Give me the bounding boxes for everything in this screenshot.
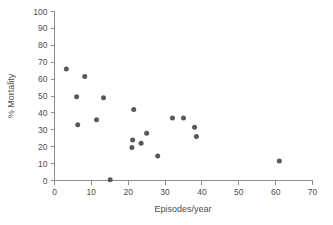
y-tick-labels: 0102030405060708090100	[33, 7, 47, 186]
data-point	[192, 125, 197, 130]
data-point	[101, 95, 106, 100]
data-point	[130, 137, 135, 142]
axes-group	[51, 12, 313, 185]
x-tick-label: 60	[271, 187, 281, 197]
y-tick-label: 30	[38, 125, 48, 135]
x-tick-label: 20	[123, 187, 133, 197]
x-tick-label: 0	[52, 187, 57, 197]
data-point	[108, 177, 113, 182]
x-axis-title: Episodes/year	[154, 204, 211, 214]
y-tick-label: 10	[38, 159, 48, 169]
x-tick-label: 30	[160, 187, 170, 197]
data-point	[277, 159, 282, 164]
x-tick-label: 10	[87, 187, 97, 197]
data-point	[82, 74, 87, 79]
data-points-group	[64, 66, 282, 182]
x-tick-label: 70	[308, 187, 318, 197]
x-tick-label: 50	[234, 187, 244, 197]
data-point	[75, 122, 80, 127]
y-tick-marks	[51, 12, 55, 181]
y-tick-label: 50	[38, 91, 48, 101]
data-point	[64, 66, 69, 71]
y-tick-label: 70	[38, 57, 48, 67]
data-point	[194, 134, 199, 139]
x-tick-label: 40	[197, 187, 207, 197]
y-axis-title: % Mortality	[6, 73, 16, 118]
y-tick-label: 90	[38, 23, 48, 33]
x-tick-marks	[55, 181, 313, 185]
y-tick-label: 60	[38, 74, 48, 84]
data-point	[181, 115, 186, 120]
axis-lines	[55, 12, 313, 181]
data-point	[155, 153, 160, 158]
x-tick-labels: 010203040506070	[52, 187, 317, 197]
data-point	[94, 117, 99, 122]
data-point	[74, 94, 79, 99]
chart-figure: 010203040506070 0102030405060708090100 E…	[0, 0, 333, 225]
data-point	[129, 145, 134, 150]
y-tick-label: 100	[33, 7, 47, 17]
data-point	[131, 107, 136, 112]
data-point	[170, 115, 175, 120]
y-tick-label: 0	[43, 176, 48, 186]
y-tick-label: 40	[38, 108, 48, 118]
y-tick-label: 80	[38, 40, 48, 50]
data-point	[144, 131, 149, 136]
y-tick-label: 20	[38, 142, 48, 152]
data-point	[139, 141, 144, 146]
scatter-plot-canvas: 010203040506070 0102030405060708090100 E…	[0, 0, 333, 225]
